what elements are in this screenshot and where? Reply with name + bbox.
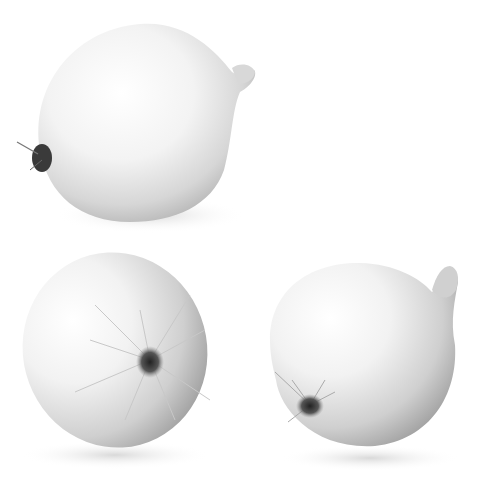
- root-icon: [17, 142, 52, 172]
- root-icon: [296, 394, 324, 418]
- root-icon: [136, 346, 164, 378]
- onions-illustration: [0, 0, 499, 499]
- bottom-left-onion: [1, 232, 229, 469]
- onion-photo: [0, 0, 499, 499]
- bottom-right-onion: [270, 263, 460, 471]
- top-onion: [17, 24, 255, 233]
